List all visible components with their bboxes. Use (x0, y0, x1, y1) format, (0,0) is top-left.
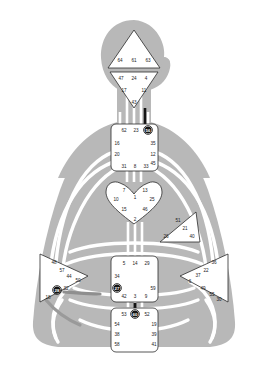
gate-7[interactable]: 7 (123, 188, 126, 193)
gate-number-label: 30 (216, 297, 222, 302)
gate-47[interactable]: 47 (118, 76, 124, 81)
gate-11[interactable]: 11 (142, 88, 147, 93)
gate-49[interactable]: 49 (200, 286, 206, 291)
gate-number-label: 60 (133, 312, 138, 317)
gate-number-label: 42 (121, 294, 127, 299)
gate-17[interactable]: 17 (121, 88, 127, 93)
gate-number-label: 25 (149, 197, 155, 202)
gate-number-label: 28 (55, 288, 60, 293)
gate-number-label: 1 (134, 195, 137, 200)
gate-31[interactable]: 31 (121, 164, 127, 169)
gate-18[interactable]: 18 (45, 295, 51, 300)
gate-21[interactable]: 21 (182, 226, 188, 231)
gate-14[interactable]: 14 (132, 261, 138, 266)
gate-number-label: 61 (131, 58, 137, 63)
gate-62[interactable]: 62 (121, 128, 127, 133)
gate-number-label: 62 (121, 128, 127, 133)
gate-12[interactable]: 12 (150, 152, 156, 157)
gate-19[interactable]: 19 (151, 322, 157, 327)
gate-25[interactable]: 25 (149, 197, 155, 202)
gate-number-label: 27 (115, 286, 120, 291)
gate-15[interactable]: 15 (121, 207, 127, 212)
gate-55[interactable]: 55 (209, 292, 215, 297)
gate-number-label: 8 (134, 164, 137, 169)
gate-59[interactable]: 59 (150, 286, 156, 291)
gate-number-label: 12 (150, 152, 156, 157)
gate-38[interactable]: 38 (114, 332, 120, 337)
gate-10[interactable]: 10 (113, 197, 119, 202)
gate-number-label: 22 (203, 268, 209, 273)
gate-number-label: 21 (182, 226, 188, 231)
gate-51[interactable]: 51 (175, 218, 181, 223)
gate-35[interactable]: 35 (150, 141, 156, 146)
gate-number-label: 38 (114, 332, 120, 337)
gate-60[interactable]: 60 (131, 310, 140, 319)
gate-number-label: 40 (189, 234, 195, 239)
gate-13[interactable]: 13 (142, 188, 148, 193)
gate-42[interactable]: 42 (121, 294, 127, 299)
gate-26[interactable]: 26 (163, 234, 169, 239)
gate-number-label: 52 (144, 312, 150, 317)
gate-46[interactable]: 46 (142, 207, 148, 212)
gate-40[interactable]: 40 (189, 234, 195, 239)
gate-37[interactable]: 37 (195, 273, 201, 278)
gate-number-label: 6 (189, 279, 192, 284)
gate-44[interactable]: 44 (66, 274, 72, 279)
gate-number-label: 41 (151, 342, 157, 347)
gate-33[interactable]: 33 (143, 164, 149, 169)
gate-1[interactable]: 1 (134, 195, 137, 200)
gate-number-label: 48 (51, 260, 57, 265)
gate-9[interactable]: 9 (145, 294, 148, 299)
gate-number-label: 53 (121, 312, 127, 317)
gate-61[interactable]: 61 (131, 58, 137, 63)
gate-22[interactable]: 22 (203, 268, 209, 273)
gate-number-label: 51 (175, 218, 181, 223)
gate-29[interactable]: 29 (144, 261, 150, 266)
gate-23[interactable]: 23 (133, 128, 139, 133)
bodygraph-diagram: 6461634724417114362235616352012318334571… (0, 0, 268, 377)
gate-43[interactable]: 43 (131, 100, 137, 105)
gate-number-label: 56 (146, 128, 151, 133)
gate-52[interactable]: 52 (144, 312, 150, 317)
gate-5[interactable]: 5 (123, 261, 126, 266)
gate-30[interactable]: 30 (216, 297, 222, 302)
gate-number-label: 10 (113, 197, 119, 202)
gate-64[interactable]: 64 (117, 58, 123, 63)
gate-34[interactable]: 34 (114, 274, 120, 279)
gate-63[interactable]: 63 (145, 58, 151, 63)
gate-57[interactable]: 57 (59, 268, 65, 273)
gate-48[interactable]: 48 (51, 260, 57, 265)
gate-36[interactable]: 36 (211, 260, 217, 265)
gate-3[interactable]: 3 (134, 294, 137, 299)
gate-number-label: 5 (123, 261, 126, 266)
gate-number-label: 34 (114, 274, 120, 279)
gate-number-label: 15 (121, 207, 127, 212)
gate-number-label: 35 (150, 141, 156, 146)
gate-41[interactable]: 41 (151, 342, 157, 347)
gate-45[interactable]: 45 (150, 161, 156, 166)
gate-number-label: 63 (145, 58, 151, 63)
gate-53[interactable]: 53 (121, 312, 127, 317)
gate-27[interactable]: 27 (113, 284, 122, 293)
gate-number-label: 64 (117, 58, 123, 63)
gate-2[interactable]: 2 (134, 217, 137, 222)
gate-number-label: 59 (150, 286, 156, 291)
gate-20[interactable]: 20 (114, 152, 120, 157)
gate-16[interactable]: 16 (114, 141, 120, 146)
gate-number-label: 46 (142, 207, 148, 212)
gate-50[interactable]: 50 (75, 278, 81, 283)
gate-54[interactable]: 54 (114, 322, 120, 327)
gate-number-label: 11 (142, 88, 147, 93)
gate-32[interactable]: 32 (63, 286, 69, 291)
gate-number-label: 4 (145, 76, 148, 81)
gate-28[interactable]: 28 (53, 286, 62, 295)
gate-number-label: 13 (142, 188, 148, 193)
gate-8[interactable]: 8 (134, 164, 137, 169)
gate-6[interactable]: 6 (189, 279, 192, 284)
gate-39[interactable]: 39 (151, 332, 157, 337)
gate-58[interactable]: 58 (114, 342, 120, 347)
gate-56[interactable]: 56 (144, 126, 153, 135)
gate-number-label: 58 (114, 342, 120, 347)
gate-4[interactable]: 4 (145, 76, 148, 81)
gate-24[interactable]: 24 (131, 76, 137, 81)
